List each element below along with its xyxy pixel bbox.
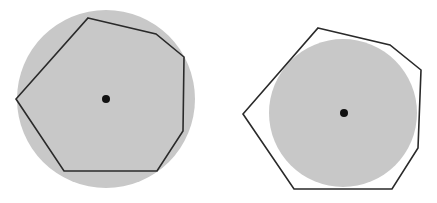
- center-point: [340, 109, 348, 117]
- diagram-canvas: [0, 0, 437, 203]
- figure-inscribed-polygon: [16, 10, 195, 188]
- center-point: [102, 95, 110, 103]
- figure-circumscribed-polygon: [243, 28, 421, 189]
